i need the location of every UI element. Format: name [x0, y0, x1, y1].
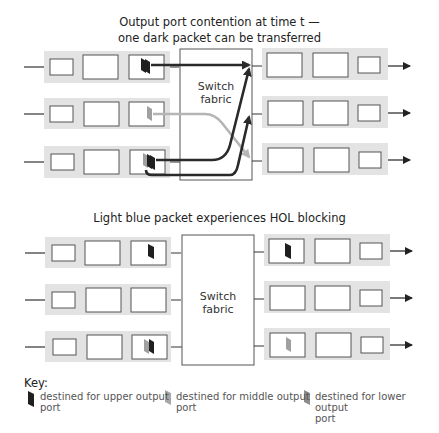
key-swatch-upper — [28, 391, 34, 407]
key-item-lower-line1: destined for lower output — [315, 391, 439, 413]
key-item-upper-line1: destined for upper output — [40, 391, 169, 402]
top-diagram — [24, 48, 410, 180]
key-item-upper: destined for upper output port — [40, 391, 169, 413]
key-item-lower: destined for lower output port — [315, 391, 439, 424]
key-heading: Key: — [24, 376, 48, 390]
bottom-fabric-line2: fabric — [182, 303, 254, 316]
bottom-output-port-3 — [254, 328, 412, 360]
bottom-output-port-2 — [254, 281, 412, 313]
top-input-port-1 — [24, 51, 179, 83]
key-item-middle: destined for middle output port — [176, 391, 310, 413]
top-output-port-2 — [252, 96, 410, 128]
hol-blocking-diagram — [0, 0, 439, 433]
bottom-input-port-2 — [25, 284, 181, 315]
bottom-fabric-label: Switch fabric — [182, 290, 254, 316]
key-item-middle-line1: destined for middle output — [176, 391, 310, 402]
bottom-input-port-3 — [25, 331, 182, 362]
bottom-fabric-line1: Switch — [182, 290, 254, 303]
bottom-input-port-1 — [25, 237, 181, 268]
top-output-port-3 — [252, 143, 410, 175]
top-output-port-1 — [252, 48, 410, 80]
key-item-upper-line2: port — [40, 402, 169, 413]
top-fabric-line1: Switch — [180, 80, 252, 93]
top-fabric-line2: fabric — [180, 93, 252, 106]
top-input-port-3 — [24, 146, 180, 178]
key-item-lower-line2: port — [315, 413, 439, 424]
key-item-middle-line2: port — [176, 402, 310, 413]
bottom-output-port-1 — [254, 234, 412, 266]
top-fabric-label: Switch fabric — [180, 80, 252, 106]
